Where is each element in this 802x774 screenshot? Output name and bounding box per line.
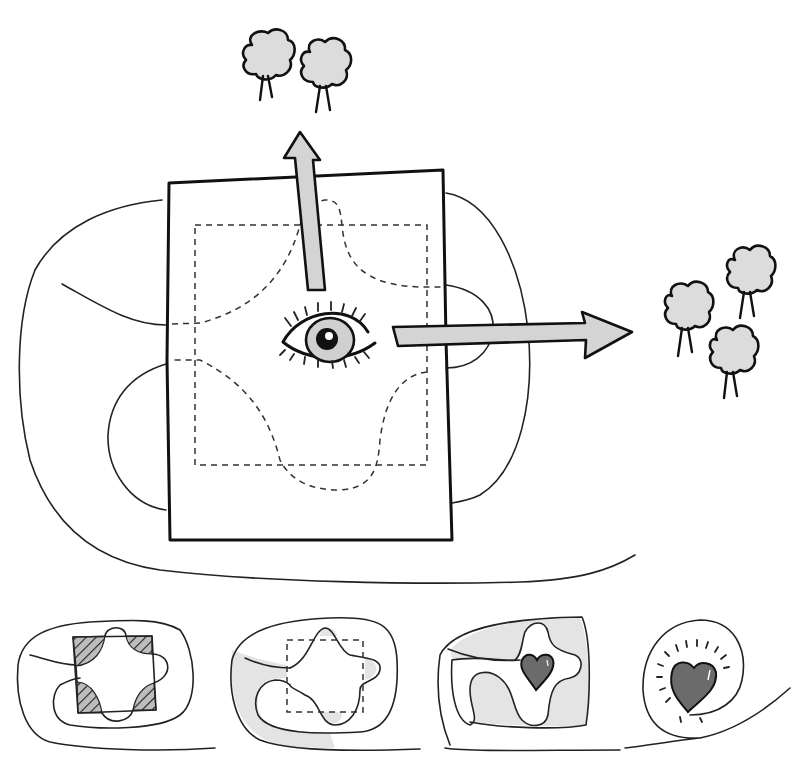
stage-2-shaded-path [231, 618, 420, 750]
tree-icon [243, 29, 295, 100]
winding-path-left-bulge [108, 364, 166, 510]
diagram-canvas [0, 0, 802, 774]
tree-icon [710, 326, 758, 398]
stage-1-hatched-corners [17, 620, 215, 750]
main-scene [19, 29, 775, 583]
winding-path-inner-left [62, 284, 166, 325]
tree-cluster-right [665, 246, 775, 398]
eye-icon [280, 302, 375, 368]
tree-icon [665, 282, 713, 356]
winding-path-outer [19, 200, 635, 583]
tree-cluster-top [243, 29, 351, 112]
stage-3-heart-in-cross [438, 617, 620, 751]
stage-4-radiant-heart [625, 620, 790, 748]
arrow-right [393, 312, 632, 358]
tree-icon [727, 246, 775, 318]
arrow-up [284, 132, 325, 290]
tree-icon [301, 38, 351, 112]
